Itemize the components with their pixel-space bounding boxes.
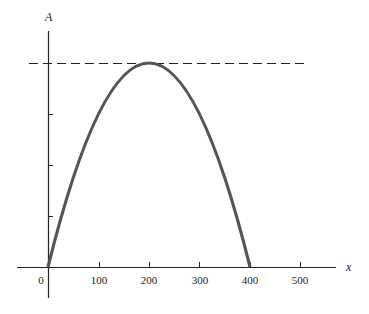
x-tick-label-500: 500 xyxy=(292,274,309,286)
x-tick-label-300: 300 xyxy=(192,274,209,286)
y-axis-label: A xyxy=(44,10,53,24)
parabola-curve xyxy=(48,63,250,267)
x-tick-label-200: 200 xyxy=(141,274,158,286)
x-tick-label-400: 400 xyxy=(242,274,259,286)
x-ticks xyxy=(100,262,301,267)
x-tick-label-0: 0 xyxy=(38,274,44,286)
chart: 0 100 200 300 400 500 x A xyxy=(0,0,369,314)
x-tick-label-100: 100 xyxy=(91,274,108,286)
x-axis-label: x xyxy=(345,260,352,274)
